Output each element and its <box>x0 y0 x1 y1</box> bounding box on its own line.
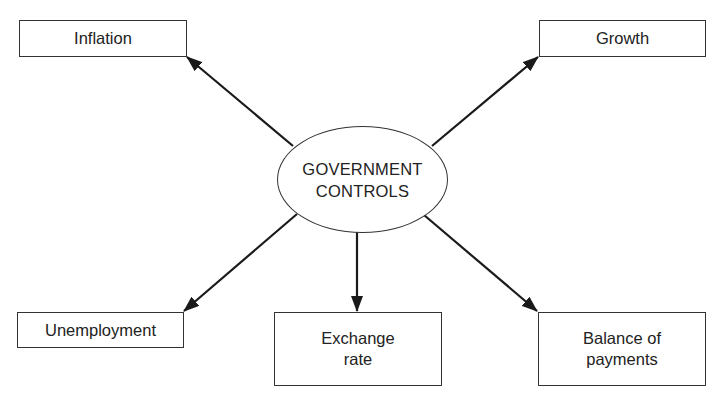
center-label-line1: GOVERNMENT <box>302 158 422 180</box>
center-label-line2: CONTROLS <box>316 180 409 202</box>
node-unemployment-label: Unemployment <box>45 320 156 341</box>
node-exchange-rate: Exchange rate <box>274 312 442 386</box>
node-balance-of-payments: Balance of payments <box>538 312 706 386</box>
node-exchange-rate-line1: Exchange <box>321 328 394 349</box>
node-inflation: Inflation <box>19 20 187 57</box>
node-unemployment: Unemployment <box>17 312 184 348</box>
diagram-canvas: Inflation Growth GOVERNMENT CONTROLS Une… <box>0 0 727 409</box>
node-balance-of-payments-line1: Balance of <box>583 328 661 349</box>
node-inflation-label: Inflation <box>74 28 132 49</box>
arrow-to-growth <box>432 57 538 146</box>
node-exchange-rate-line2: rate <box>344 349 372 370</box>
arrow-to-inflation <box>187 57 293 146</box>
arrow-to-unemployment <box>184 214 297 311</box>
node-growth: Growth <box>539 20 706 57</box>
arrow-to-balance-of-payments <box>424 215 537 311</box>
node-balance-of-payments-line2: payments <box>586 349 658 370</box>
center-node-government-controls: GOVERNMENT CONTROLS <box>277 126 448 233</box>
node-growth-label: Growth <box>596 28 649 49</box>
